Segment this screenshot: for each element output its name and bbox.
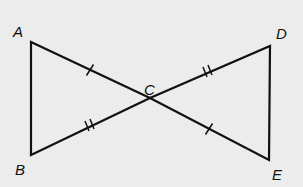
label-d: D — [276, 26, 287, 41]
triangle-figure: A B C D E — [0, 0, 303, 187]
label-a: A — [13, 24, 23, 39]
triangle-abc — [31, 42, 150, 155]
triangle-cde — [150, 46, 270, 160]
label-b: B — [15, 162, 25, 177]
label-e: E — [272, 167, 282, 182]
label-c: C — [144, 82, 155, 97]
